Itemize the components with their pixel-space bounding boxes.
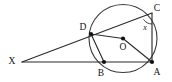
angle-label-x: x — [142, 23, 147, 32]
vertex-dot-D — [89, 32, 93, 36]
geometry-diagram: X D C B A O x — [0, 0, 172, 82]
vertex-dot-B — [102, 60, 106, 64]
point-label-C: C — [154, 3, 160, 13]
segment-DO — [91, 34, 123, 39]
vertex-dot-A — [150, 60, 154, 64]
point-label-X: X — [9, 56, 16, 66]
segment-OA — [123, 39, 152, 63]
point-label-A: A — [154, 67, 161, 77]
point-label-O: O — [120, 42, 127, 52]
point-label-B: B — [98, 68, 104, 78]
geometry-canvas: X D C B A O x — [0, 0, 172, 82]
segment-XC — [22, 13, 152, 62]
segment-DB — [91, 34, 104, 62]
vertex-dot-O — [121, 36, 125, 40]
point-label-D: D — [80, 22, 87, 32]
